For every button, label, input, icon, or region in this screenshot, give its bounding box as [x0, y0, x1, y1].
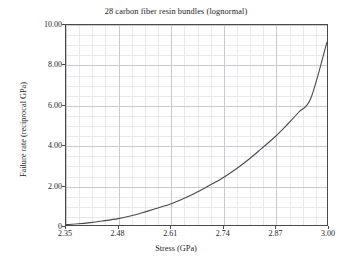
series-lognormal-hazard — [66, 25, 327, 225]
x-tick-label: 2.61 — [150, 229, 190, 238]
x-axis-title: Stress (GPa) — [0, 244, 352, 253]
y-tick — [62, 226, 65, 227]
y-axis-title: Failure rate (reciprocal GPa) — [19, 45, 28, 215]
y-tick — [62, 105, 65, 106]
y-tick-label: 0 — [18, 222, 62, 231]
y-tick — [62, 64, 65, 65]
plot-area — [65, 24, 328, 226]
x-tick-label: 2.48 — [98, 229, 138, 238]
curve-path — [66, 42, 327, 225]
y-tick — [62, 186, 65, 187]
y-tick — [62, 145, 65, 146]
x-tick-label: 2.87 — [255, 229, 295, 238]
x-tick-label: 3.00 — [308, 229, 348, 238]
y-tick — [62, 24, 65, 25]
figure: 28 carbon fiber resin bundles (lognormal… — [0, 0, 352, 274]
x-tick-label: 2.74 — [203, 229, 243, 238]
curve-svg — [66, 25, 327, 225]
y-tick-label: 10.00 — [18, 20, 62, 29]
